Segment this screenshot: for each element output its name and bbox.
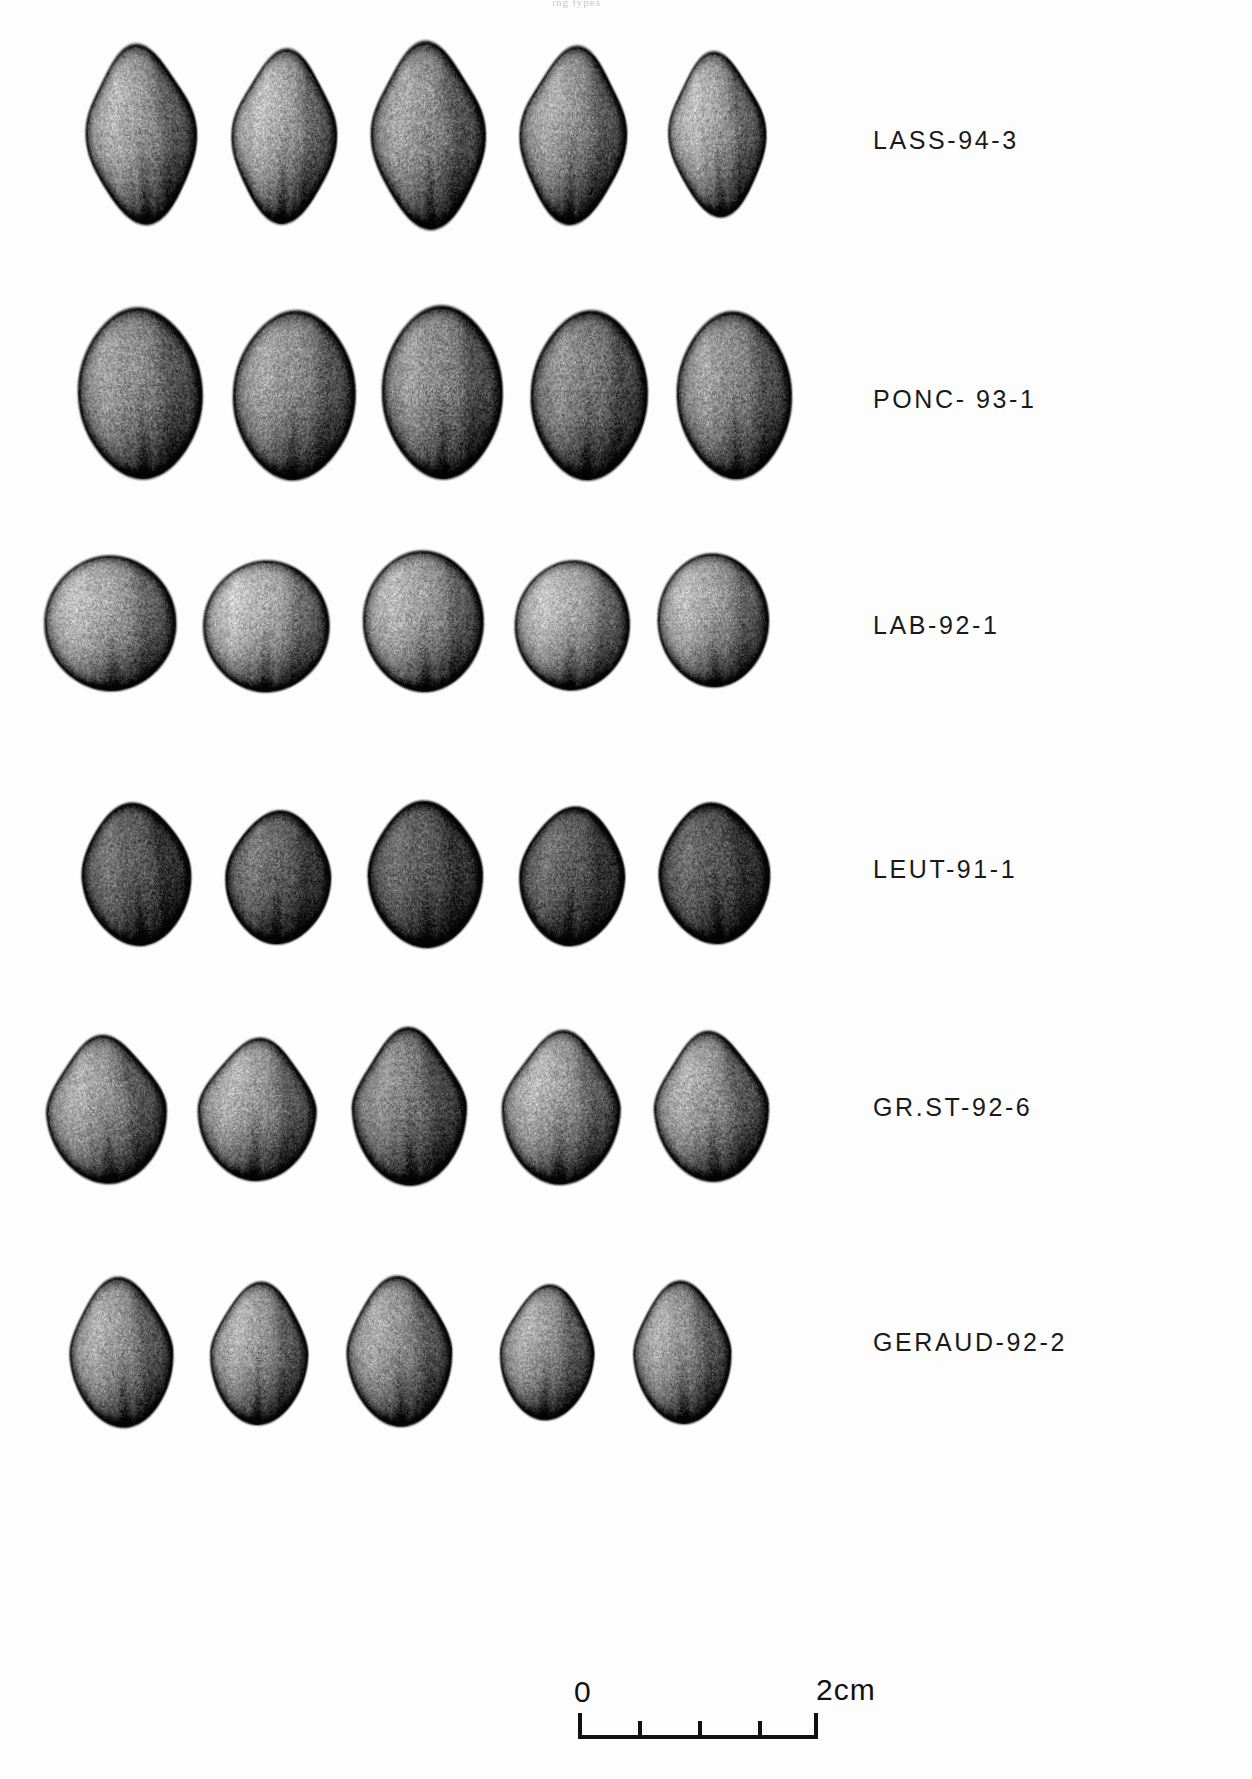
scale-bar-tick [698,1721,702,1737]
nut-specimen [340,1269,458,1433]
nut-specimen-image [511,798,633,953]
nut-specimen [627,1274,736,1430]
scale-bar-end-label: 2cm [816,1673,876,1707]
nut-specimen [376,299,507,485]
nut-specimen-image [37,1026,176,1193]
nut-specimen-image [356,544,489,698]
row-label-lab: LAB-92-1 [873,611,999,640]
nut-specimen-image [627,1274,736,1430]
nut-specimen-image [495,1023,627,1191]
nut-specimen [37,1026,176,1193]
nut-specimen-image [340,1269,458,1433]
nut-specimen [660,43,773,224]
nut-specimen-image [646,1023,776,1189]
row-label-geraud: GERAUD-92-2 [873,1328,1067,1357]
nut-specimen-image [652,547,775,693]
scale-bar-tick [578,1713,582,1739]
scale-bar-start-label: 0 [574,1675,592,1709]
nut-specimen-image [62,1269,180,1435]
nut-specimen [69,299,210,488]
nut-specimen [190,1030,324,1188]
nut-specimen-image [226,303,362,487]
nut-specimen-image [75,34,206,234]
nut-specimen [361,794,488,954]
top-page-artifact: ing types [552,0,601,8]
nut-specimen [524,303,654,487]
scale-bar-tick [638,1721,642,1737]
nut-specimen [204,1275,313,1431]
nut-specimen [652,547,775,693]
nut-specimen [347,1021,472,1191]
nut-specimen [364,33,493,237]
nut-specimen [511,798,633,953]
nut-specimen-image [72,793,201,955]
scale-bar-tick [814,1713,818,1739]
nut-specimen [507,553,636,697]
nut-specimen-image [511,37,635,233]
nut-specimen [356,544,489,698]
row-label-lass: LASS-94-3 [873,126,1019,155]
row-label-leut: LEUT-91-1 [873,855,1017,884]
nut-specimen [72,793,201,955]
row-label-ponc: PONC- 93-1 [873,385,1037,414]
nut-specimen [226,303,362,487]
scale-bar: 02cm [578,1713,818,1773]
nut-specimen-image [190,1030,324,1188]
nut-specimen [511,37,635,233]
nut-specimen-image [361,794,488,954]
nut-specimen-image [493,1277,600,1426]
nut-specimen-image [197,554,336,699]
nut-specimen-image [218,803,337,951]
nut-specimen-image [36,547,183,698]
nut-specimen-image [364,33,493,237]
nut-specimen-image [376,299,507,485]
nut-specimen [650,794,778,952]
nut-specimen-image [507,553,636,697]
nut-specimen-image [347,1021,472,1191]
nut-specimen [218,803,337,951]
nut-specimen [646,1023,776,1189]
nut-specimen-image [524,303,654,487]
nut-specimen-image [69,299,210,488]
nut-specimen [36,547,183,698]
nut-specimen [670,304,798,486]
figure-plate: ing types LASS-94-3PONC- 93-1LAB-92-1LEU… [0,0,1252,1779]
nut-specimen [75,34,206,234]
nut-specimen [493,1277,600,1426]
nut-specimen-image [670,304,798,486]
nut-specimen [495,1023,627,1191]
nut-specimen [225,41,343,231]
nut-specimen [197,554,336,699]
nut-specimen-image [660,43,773,224]
row-label-grst: GR.ST-92-6 [873,1093,1032,1122]
nut-specimen-image [204,1275,313,1431]
nut-specimen-image [650,794,778,952]
nut-specimen [62,1269,180,1435]
scale-bar-tick [758,1721,762,1737]
nut-specimen-image [225,41,343,231]
